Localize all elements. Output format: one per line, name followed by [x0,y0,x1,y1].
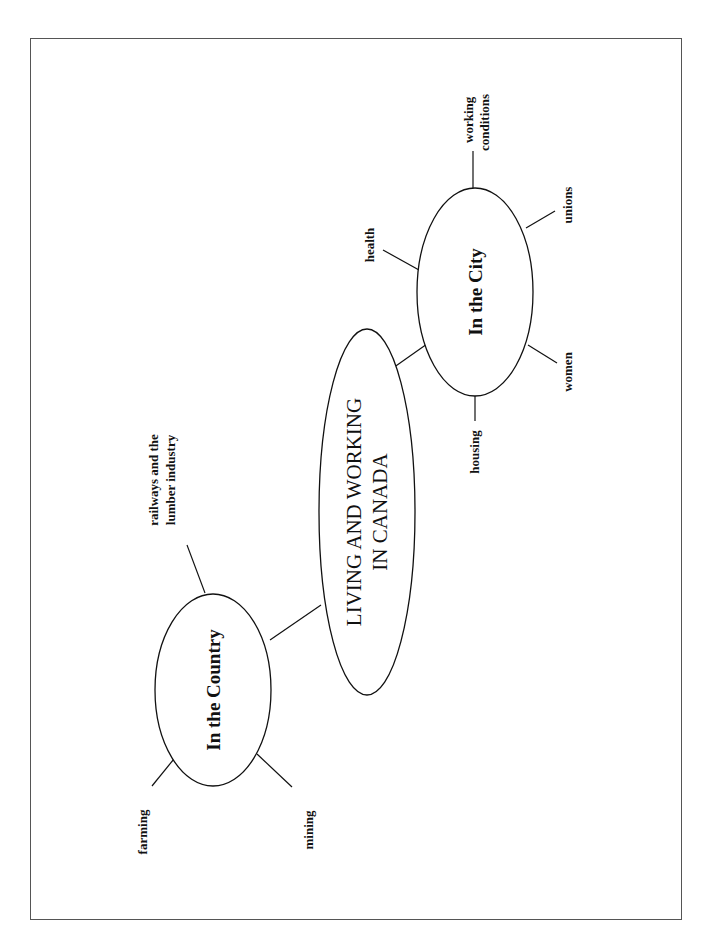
central-topic-line1: LIVING AND WORKING [342,398,366,626]
svg-text:conditions: conditions [477,94,492,151]
link-unions [526,211,555,228]
country-branch-label: In the Country [203,629,224,751]
subtopic-railways-lumber: railways and the lumber industry [146,434,178,526]
subtopic-health: health [362,227,377,262]
link-women [528,345,557,363]
subtopic-working-conditions: working conditions [461,94,492,151]
link-railways [187,545,205,593]
central-topic-line2: IN CANADA [368,453,392,571]
subtopic-housing: housing [467,430,482,474]
svg-text:working: working [461,96,476,143]
subtopic-women: women [560,351,575,391]
link-center-country [270,605,321,640]
link-health [383,250,419,270]
svg-text:lumber industry: lumber industry [163,434,178,525]
subtopic-mining: mining [301,810,316,850]
mind-map-diagram: LIVING AND WORKING IN CANADA In the City… [0,0,711,947]
city-branch-label: In the City [465,248,486,336]
subtopic-farming: farming [135,809,150,854]
link-mining [257,754,292,787]
svg-text:railways and the: railways and the [146,434,161,526]
subtopic-unions: unions [560,187,575,224]
central-topic-node [319,329,415,695]
